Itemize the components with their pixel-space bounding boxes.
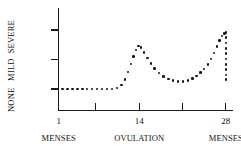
data-point: [221, 35, 224, 38]
data-point: [120, 84, 123, 87]
data-point: [225, 78, 228, 81]
y-category-label-mild: MILD: [6, 58, 16, 81]
data-point: [132, 55, 135, 58]
data-point: [213, 52, 216, 55]
data-point: [71, 88, 74, 91]
data-point: [140, 46, 143, 49]
x-axis-tick-day-14: [139, 103, 140, 110]
data-point: [81, 88, 84, 91]
data-point: [153, 67, 156, 70]
data-point: [210, 58, 213, 61]
y-axis-tick-mild: [51, 59, 59, 60]
data-point: [127, 71, 130, 74]
x-axis-phase-label-day-28: MENSES: [209, 133, 241, 143]
data-point: [135, 49, 138, 52]
data-point: [111, 88, 114, 91]
data-point: [182, 80, 185, 83]
data-point: [158, 72, 161, 75]
data-point: [199, 71, 202, 74]
data-point: [191, 77, 194, 80]
data-point: [106, 88, 109, 91]
data-point: [143, 51, 146, 54]
data-point: [101, 88, 104, 91]
data-point: [146, 57, 149, 60]
x-axis-tick-day-28: [225, 103, 226, 110]
y-axis-tick-none: [51, 88, 59, 89]
x-axis-line: [58, 110, 233, 111]
data-point: [61, 88, 64, 91]
x-axis-label-1: 1: [56, 116, 61, 126]
data-point: [225, 31, 228, 34]
data-point: [203, 68, 206, 71]
data-point: [225, 47, 228, 50]
data-point: [225, 36, 228, 39]
data-point: [86, 88, 89, 91]
data-point: [225, 63, 228, 66]
data-point: [207, 63, 210, 66]
data-point: [124, 78, 127, 81]
data-point: [225, 42, 228, 45]
data-point: [167, 78, 170, 81]
data-point: [177, 80, 180, 83]
data-point: [187, 79, 190, 82]
x-axis-tick-day-1: [58, 103, 59, 110]
data-point: [162, 75, 165, 78]
data-point: [76, 88, 79, 91]
y-category-label-none: NONE: [6, 88, 16, 112]
data-point: [216, 45, 219, 48]
data-point: [66, 88, 69, 91]
y-axis-tick-severe: [51, 29, 59, 30]
data-point: [116, 87, 119, 90]
x-axis-tick-day-21: [182, 103, 183, 110]
x-axis-phase-label-day-14: OVULATION: [114, 133, 164, 143]
data-point: [91, 88, 94, 91]
data-point: [96, 88, 99, 91]
x-axis-label-14: 14: [135, 116, 144, 126]
x-axis-phase-label-day-1: MENSES: [42, 133, 76, 143]
y-axis-category-labels: NONE MILD SEVERE: [5, 20, 17, 112]
data-point: [225, 52, 228, 55]
data-point: [225, 68, 228, 71]
data-point: [225, 58, 228, 61]
data-point: [225, 74, 228, 77]
y-category-label-severe: SEVERE: [6, 20, 16, 53]
x-axis-tick-day-7: [95, 103, 96, 110]
data-point: [218, 39, 221, 42]
data-point: [195, 75, 198, 78]
severity-of-symptoms-chart: SEVERITY OF SYMPTOMS NONE MILD SEVERE 11…: [0, 0, 241, 154]
data-point: [130, 63, 133, 66]
data-point: [150, 62, 153, 65]
x-axis-label-28: 28: [221, 116, 230, 126]
data-point: [172, 79, 175, 82]
